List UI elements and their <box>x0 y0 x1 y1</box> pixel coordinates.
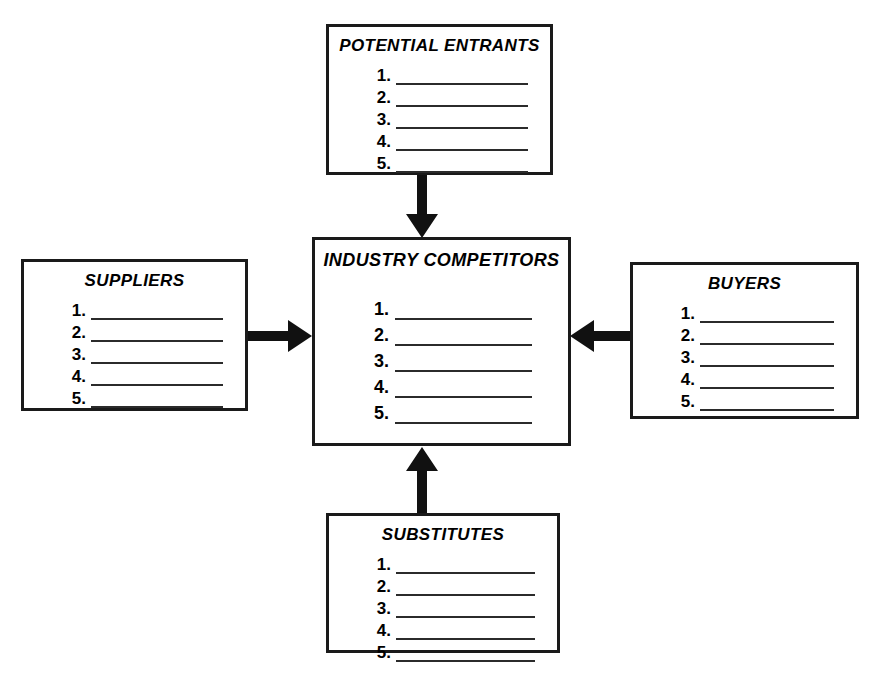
list-item[interactable]: 3. <box>60 343 223 364</box>
blank-write-in-rule[interactable] <box>395 396 532 398</box>
list-item[interactable]: 2. <box>365 575 535 596</box>
line-number: 3. <box>361 351 389 372</box>
line-number: 2. <box>365 577 391 596</box>
line-number: 2. <box>361 325 389 346</box>
blank-write-in-rule[interactable] <box>700 321 834 323</box>
blank-write-in-rule[interactable] <box>700 343 834 345</box>
line-number: 3. <box>365 599 391 618</box>
box-industry-competitors[interactable]: INDUSTRY COMPETITORS 1. 2. 3. 4. 5. <box>312 237 571 446</box>
diagram-canvas: POTENTIAL ENTRANTS 1. 2. 3. 4. 5. <box>0 0 877 686</box>
box-buyers[interactable]: BUYERS 1. 2. 3. 4. 5. <box>630 262 859 419</box>
list-item[interactable]: 5. <box>361 399 532 424</box>
list-item[interactable]: 5. <box>60 387 223 408</box>
box-substitutes-lines: 1. 2. 3. 4. 5. <box>329 553 557 662</box>
blank-write-in-rule[interactable] <box>395 344 532 346</box>
line-number: 3. <box>669 348 695 367</box>
line-number: 4. <box>365 132 391 151</box>
box-substitutes-title: SUBSTITUTES <box>329 525 557 545</box>
blank-write-in-rule[interactable] <box>91 384 223 386</box>
blank-write-in-rule[interactable] <box>395 422 532 424</box>
arrow-up-icon <box>404 445 440 515</box>
list-item[interactable]: 2. <box>361 321 532 346</box>
list-item[interactable]: 2. <box>365 86 528 107</box>
list-item[interactable]: 5. <box>365 152 528 173</box>
list-item[interactable]: 5. <box>669 390 834 411</box>
blank-write-in-rule[interactable] <box>396 660 535 662</box>
line-number: 5. <box>361 403 389 424</box>
blank-write-in-rule[interactable] <box>396 572 535 574</box>
box-suppliers[interactable]: SUPPLIERS 1. 2. 3. 4. 5. <box>21 259 248 411</box>
blank-write-in-rule[interactable] <box>91 406 223 408</box>
box-potential-entrants[interactable]: POTENTIAL ENTRANTS 1. 2. 3. 4. 5. <box>326 24 553 175</box>
line-number: 4. <box>361 377 389 398</box>
blank-write-in-rule[interactable] <box>700 387 834 389</box>
line-number: 4. <box>60 367 86 386</box>
arrow-right-icon <box>247 318 314 354</box>
line-number: 2. <box>669 326 695 345</box>
box-industry-competitors-title: INDUSTRY COMPETITORS <box>315 250 568 271</box>
blank-write-in-rule[interactable] <box>396 127 528 129</box>
list-item[interactable]: 4. <box>365 130 528 151</box>
blank-write-in-rule[interactable] <box>396 171 528 173</box>
arrow-down-icon <box>404 174 440 240</box>
arrow-left-icon <box>570 318 632 354</box>
box-buyers-title: BUYERS <box>633 274 856 294</box>
blank-write-in-rule[interactable] <box>396 594 535 596</box>
list-item[interactable]: 4. <box>361 373 532 398</box>
list-item[interactable]: 3. <box>361 347 532 372</box>
box-buyers-lines: 1. 2. 3. 4. 5. <box>633 302 856 411</box>
box-industry-competitors-lines: 1. 2. 3. 4. 5. <box>315 295 568 424</box>
list-item[interactable]: 4. <box>365 619 535 640</box>
list-item[interactable]: 1. <box>361 295 532 320</box>
line-number: 2. <box>365 88 391 107</box>
line-number: 2. <box>60 323 86 342</box>
list-item[interactable]: 4. <box>669 368 834 389</box>
line-number: 4. <box>669 370 695 389</box>
box-suppliers-lines: 1. 2. 3. 4. 5. <box>24 299 245 408</box>
list-item[interactable]: 1. <box>60 299 223 320</box>
list-item[interactable]: 5. <box>365 641 535 662</box>
list-item[interactable]: 1. <box>669 302 834 323</box>
line-number: 5. <box>60 389 86 408</box>
list-item[interactable]: 2. <box>669 324 834 345</box>
blank-write-in-rule[interactable] <box>91 340 223 342</box>
blank-write-in-rule[interactable] <box>396 105 528 107</box>
blank-write-in-rule[interactable] <box>396 149 528 151</box>
box-potential-entrants-title: POTENTIAL ENTRANTS <box>329 36 550 56</box>
blank-write-in-rule[interactable] <box>700 409 834 411</box>
list-item[interactable]: 3. <box>365 108 528 129</box>
line-number: 3. <box>60 345 86 364</box>
line-number: 1. <box>60 301 86 320</box>
blank-write-in-rule[interactable] <box>395 318 532 320</box>
list-item[interactable]: 1. <box>365 64 528 85</box>
box-suppliers-title: SUPPLIERS <box>24 271 245 291</box>
line-number: 5. <box>365 643 391 662</box>
line-number: 3. <box>365 110 391 129</box>
line-number: 1. <box>669 304 695 323</box>
blank-write-in-rule[interactable] <box>700 365 834 367</box>
line-number: 1. <box>365 66 391 85</box>
blank-write-in-rule[interactable] <box>91 318 223 320</box>
box-substitutes[interactable]: SUBSTITUTES 1. 2. 3. 4. 5. <box>326 513 560 653</box>
blank-write-in-rule[interactable] <box>396 616 535 618</box>
list-item[interactable]: 1. <box>365 553 535 574</box>
blank-write-in-rule[interactable] <box>396 638 535 640</box>
line-number: 1. <box>361 299 389 320</box>
line-number: 5. <box>365 154 391 173</box>
list-item[interactable]: 3. <box>365 597 535 618</box>
blank-write-in-rule[interactable] <box>395 370 532 372</box>
list-item[interactable]: 2. <box>60 321 223 342</box>
line-number: 4. <box>365 621 391 640</box>
box-potential-entrants-lines: 1. 2. 3. 4. 5. <box>329 64 550 173</box>
list-item[interactable]: 3. <box>669 346 834 367</box>
blank-write-in-rule[interactable] <box>91 362 223 364</box>
line-number: 5. <box>669 392 695 411</box>
blank-write-in-rule[interactable] <box>396 83 528 85</box>
line-number: 1. <box>365 555 391 574</box>
list-item[interactable]: 4. <box>60 365 223 386</box>
